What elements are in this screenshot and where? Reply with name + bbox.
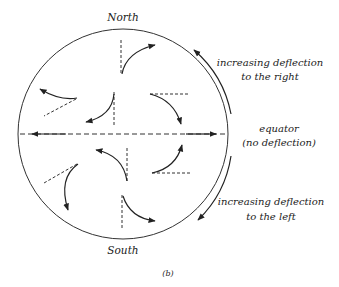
equator-label-line1: equator bbox=[259, 123, 300, 134]
south-label: South bbox=[107, 244, 138, 256]
left-deflection-label-line1: increasing deflection bbox=[218, 196, 324, 207]
deflection-arrow-south-right bbox=[152, 145, 190, 173]
deflection-arrow-north-top bbox=[121, 40, 155, 75]
deflection-arrow-north-right bbox=[150, 94, 190, 124]
deflection-arrow-north-left bbox=[40, 89, 77, 116]
figure-caption: (b) bbox=[162, 269, 173, 278]
coriolis-deflection-diagram: North South increasing deflection to the… bbox=[0, 0, 339, 287]
equator-label-line2: (no deflection) bbox=[242, 137, 316, 148]
deflection-arrow-south-center bbox=[96, 148, 127, 182]
north-label: North bbox=[106, 11, 139, 23]
deflection-arrow-north-center bbox=[86, 92, 114, 126]
right-deflection-label-line2: to the right bbox=[241, 71, 300, 82]
left-deflection-label-line2: to the left bbox=[246, 211, 297, 222]
right-deflection-label-line1: increasing deflection bbox=[217, 57, 323, 68]
deflection-arrow-south-left bbox=[44, 164, 78, 210]
deflection-arrow-south-bottom bbox=[122, 195, 155, 229]
left-deflection-arc bbox=[198, 156, 231, 220]
